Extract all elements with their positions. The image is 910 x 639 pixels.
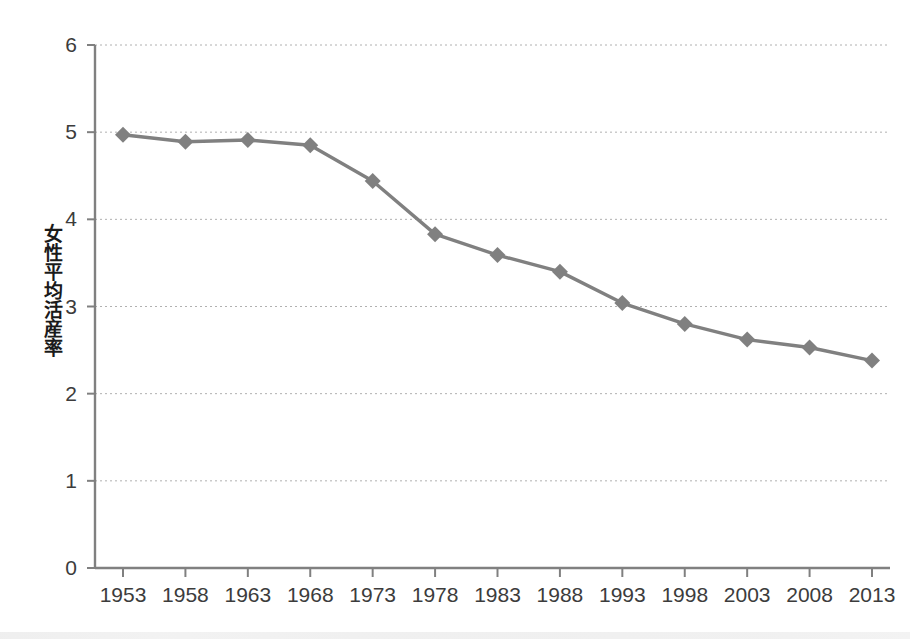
chart-figure: 女性平均活産率 0123456 195319581963196819731978… (0, 0, 910, 639)
data-point-marker (115, 127, 131, 143)
x-tick-label: 1983 (463, 583, 533, 607)
data-point-marker (802, 339, 818, 355)
y-tick-label: 4 (47, 207, 77, 231)
y-tick-label: 5 (47, 120, 77, 144)
data-point-marker (864, 353, 880, 369)
x-tick-label: 1958 (150, 583, 220, 607)
x-tick-label: 2013 (837, 583, 907, 607)
x-tick-label: 1993 (587, 583, 657, 607)
y-tick-label: 1 (47, 469, 77, 493)
y-tick-label: 3 (47, 295, 77, 319)
y-tick-label: 0 (47, 556, 77, 580)
x-tick-label: 1968 (275, 583, 345, 607)
x-tick-label: 1973 (338, 583, 408, 607)
data-point-marker (490, 247, 506, 263)
x-tick-label: 2003 (712, 583, 782, 607)
plot-area (0, 0, 910, 639)
data-point-marker (677, 316, 693, 332)
scan-artifact-strip (0, 632, 910, 639)
data-point-marker (614, 295, 630, 311)
y-tick-label: 2 (47, 382, 77, 406)
data-point-marker (177, 134, 193, 150)
x-tick-label: 1998 (650, 583, 720, 607)
x-tick-label: 1963 (213, 583, 283, 607)
x-tick-label: 1988 (525, 583, 595, 607)
data-point-marker (552, 264, 568, 280)
x-tick-label: 1953 (88, 583, 158, 607)
x-tick-label: 1978 (400, 583, 470, 607)
data-point-marker (240, 132, 256, 148)
y-tick-label: 6 (47, 33, 77, 57)
x-tick-label: 2008 (775, 583, 845, 607)
data-point-marker (739, 332, 755, 348)
data-point-marker (302, 137, 318, 153)
